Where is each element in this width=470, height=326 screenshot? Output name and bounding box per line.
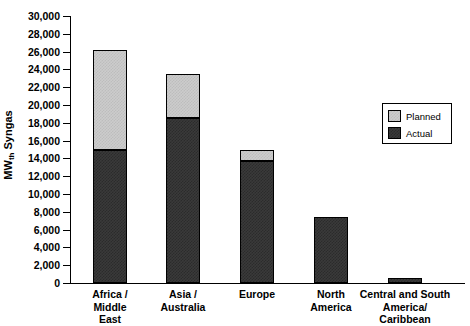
- bar-segment-planned[interactable]: [166, 74, 200, 119]
- bar-segment-planned[interactable]: [240, 150, 274, 162]
- bar-chart: MWth Syngas 30,00028,00026,00024,00022,0…: [0, 0, 470, 326]
- x-axis-line: [70, 283, 465, 284]
- y-axis-tick: [63, 265, 70, 266]
- bar-group[interactable]: [240, 16, 274, 283]
- y-axis-tick: [63, 141, 70, 142]
- y-axis-tick-label: 14,000: [16, 153, 60, 163]
- y-axis-tick-label: 24,000: [16, 64, 60, 74]
- y-axis-title-main: MW: [2, 160, 14, 180]
- bar-group[interactable]: [93, 16, 127, 283]
- y-axis-title-tail: Syngas: [2, 110, 14, 152]
- bar-segment-actual[interactable]: [314, 217, 348, 283]
- y-axis-tick-label: 6,000: [16, 225, 60, 235]
- y-axis-tick: [63, 230, 70, 231]
- bar-segment-actual[interactable]: [93, 150, 127, 284]
- y-axis-tick: [63, 52, 70, 53]
- y-axis-tick-labels: 30,00028,00026,00024,00022,00020,00018,0…: [14, 0, 60, 300]
- y-axis-tick: [63, 247, 70, 248]
- y-axis-tick: [63, 194, 70, 195]
- bar-segment-actual[interactable]: [166, 118, 200, 283]
- y-axis-tick-label: 10,000: [16, 189, 60, 199]
- y-axis-tick-label: 2,000: [16, 260, 60, 270]
- y-axis-tick-label: 8,000: [16, 207, 60, 217]
- y-axis-tick-label: 0: [16, 278, 60, 288]
- y-axis-tick: [63, 69, 70, 70]
- y-axis-tick: [63, 34, 70, 35]
- y-axis-tick-label: 28,000: [16, 29, 60, 39]
- y-axis-tick-label: 20,000: [16, 100, 60, 110]
- y-axis-tick-label: 26,000: [16, 47, 60, 57]
- y-axis-tick: [63, 105, 70, 106]
- y-axis-tick-label: 16,000: [16, 136, 60, 146]
- y-axis-tick-label: 30,000: [16, 11, 60, 21]
- bar-segment-planned[interactable]: [93, 50, 127, 150]
- y-axis-tick: [63, 16, 70, 17]
- y-axis-tick: [63, 212, 70, 213]
- bar-group[interactable]: [388, 16, 422, 283]
- y-axis-tick: [63, 158, 70, 159]
- bar-segment-actual[interactable]: [240, 161, 274, 283]
- y-axis-tick: [63, 123, 70, 124]
- bar-group[interactable]: [166, 16, 200, 283]
- y-axis-tick: [63, 283, 70, 284]
- y-axis-tick-label: 12,000: [16, 171, 60, 181]
- y-axis-tick: [63, 176, 70, 177]
- y-axis-tick-label: 22,000: [16, 82, 60, 92]
- y-axis-tick: [63, 87, 70, 88]
- bar-segment-actual[interactable]: [388, 278, 422, 283]
- x-axis-tick-label: Central and SouthAmerica/Caribbean: [345, 288, 465, 326]
- y-axis-tick-label: 4,000: [16, 242, 60, 252]
- y-axis-tick-label: 18,000: [16, 118, 60, 128]
- bar-group[interactable]: [314, 16, 348, 283]
